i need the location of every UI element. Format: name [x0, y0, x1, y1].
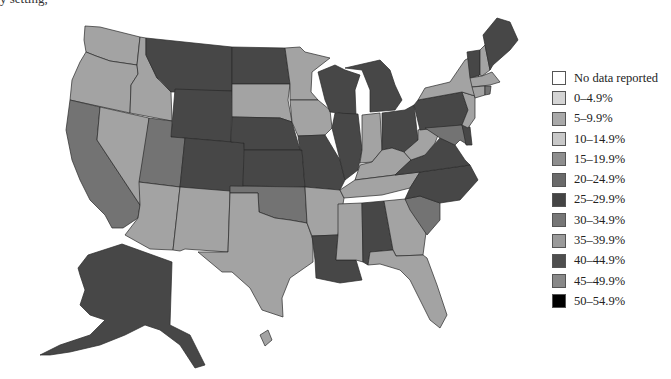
swatch-25-29.9	[552, 193, 566, 207]
legend-item-15-19.9: 15–19.9%	[552, 149, 658, 169]
state-CO	[180, 138, 244, 193]
state-RI	[485, 86, 491, 95]
state-ND	[232, 47, 290, 84]
state-KS	[243, 150, 305, 187]
swatch-0-4.9	[552, 91, 566, 105]
state-SD	[232, 84, 292, 122]
legend-item-45-49.9: 45–49.9%	[552, 271, 658, 291]
swatch-35-39.9	[552, 234, 566, 248]
state-ME	[483, 18, 518, 70]
legend-item-50-54.9: 50–54.9%	[552, 291, 658, 311]
swatch-30-34.9	[552, 213, 566, 227]
swatch-5-9.9	[552, 112, 566, 126]
state-WY	[171, 89, 232, 142]
legend-item-0-4.9: 0–4.9%	[552, 88, 658, 108]
state-FL	[368, 250, 447, 328]
swatch-no-data	[552, 71, 566, 85]
swatch-40-44.9	[552, 254, 566, 268]
legend-item-10-14.9: 10–14.9%	[552, 129, 658, 149]
swatch-50-54.9	[552, 294, 566, 308]
legend-item-5-9.9: 5–9.9%	[552, 109, 658, 129]
legend-item-40-44.9: 40–44.9%	[552, 251, 658, 271]
swatch-15-19.9	[552, 152, 566, 166]
swatch-20-24.9	[552, 173, 566, 187]
legend-item-20-24.9: 20–24.9%	[552, 169, 658, 189]
state-IA	[290, 100, 332, 136]
state-NM	[173, 187, 230, 252]
state-AK	[40, 244, 205, 368]
legend-item-30-34.9: 30–34.9%	[552, 210, 658, 230]
swatch-10-14.9	[552, 132, 566, 146]
legend-item-no-data: No data reported	[552, 68, 658, 88]
state-MS	[336, 203, 363, 262]
swatch-45-49.9	[552, 274, 566, 288]
legend: No data reported 0–4.9% 5–9.9% 10–14.9% …	[552, 68, 658, 312]
legend-item-35-39.9: 35–39.9%	[552, 230, 658, 250]
state-HI	[260, 330, 272, 346]
legend-item-25-29.9: 25–29.9%	[552, 190, 658, 210]
